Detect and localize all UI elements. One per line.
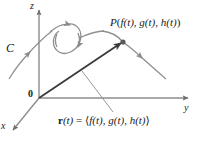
axis-x	[13, 98, 39, 130]
vector-label-equals: =	[73, 114, 85, 126]
axis-label-x: x	[1, 121, 5, 131]
figure-canvas: z y x 0 C P(f(t), g(t), h(t)) r(t) = ⟨f(…	[0, 0, 199, 142]
vector-label-r: r(t) = ⟨f(t), g(t), h(t)⟩	[58, 115, 150, 126]
point-P-marker	[120, 39, 125, 44]
point-label-t2: (t)	[145, 16, 155, 28]
space-curve-C	[9, 24, 166, 79]
point-label-p: P(f(t), g(t), h(t))	[110, 17, 180, 28]
point-label-p-letter: P	[110, 16, 117, 28]
vector-label-t2: (t)	[114, 114, 124, 126]
point-label-t3: (t)	[166, 16, 176, 28]
leader-line-vector-label	[82, 71, 113, 112]
point-label-t1: (t)	[123, 16, 133, 28]
vector-label-angle-close: ⟩	[146, 114, 150, 126]
origin-label: 0	[28, 89, 33, 99]
vector-label-t3: (t)	[135, 114, 145, 126]
position-vector-arrow	[39, 43, 121, 98]
vector-label-t1: (t)	[92, 114, 102, 126]
axis-label-z: z	[30, 1, 34, 11]
curve-label-c: C	[6, 42, 14, 54]
axis-label-y: y	[184, 103, 188, 113]
vector-label-t: (t)	[63, 114, 73, 126]
point-label-paren-close: )	[177, 16, 181, 28]
